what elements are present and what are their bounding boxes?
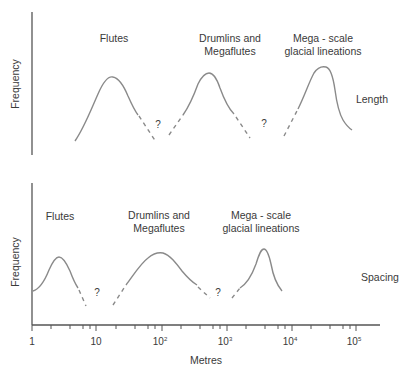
x-tick-label-10: 10 xyxy=(90,336,102,347)
length-drumlins-curve xyxy=(183,73,234,115)
length-gap-2-marker: ? xyxy=(261,118,267,129)
length-mscl-lead xyxy=(284,109,298,136)
x-tick-label-10e5: 105 xyxy=(347,336,362,347)
spacing-gap-2-marker: ? xyxy=(215,287,221,298)
length-flutes-label: Flutes xyxy=(100,32,129,44)
length-gap-1-marker: ? xyxy=(155,119,161,130)
spacing-flutes-curve xyxy=(33,257,78,291)
spacing-gap-1-marker: ? xyxy=(94,287,100,298)
x-tick-label-1: 1 xyxy=(29,336,35,347)
length-drumlins-label-line2: Megaflutes xyxy=(204,45,255,57)
frequency-distribution-diagram: Frequency Flutes Drumlins and Megaflutes… xyxy=(0,0,407,372)
length-mscl-label-line2: glacial lineations xyxy=(284,45,361,57)
length-mscl-label-line1: Mega - scale xyxy=(293,32,353,44)
length-drumlins-tail xyxy=(236,117,250,138)
length-y-axis-label: Frequency xyxy=(9,58,21,108)
spacing-drumlins-curve xyxy=(126,253,197,285)
spacing-drumlins-lead xyxy=(113,285,126,305)
spacing-side-label: Spacing xyxy=(361,271,399,283)
spacing-drumlins-label-line2: Megaflutes xyxy=(133,222,184,234)
x-tick-label-10e3: 103 xyxy=(218,336,233,347)
spacing-flutes-tail xyxy=(79,290,86,306)
length-drumlins-label-line1: Drumlins and xyxy=(199,32,261,44)
spacing-mscl-label-line1: Mega - scale xyxy=(231,209,291,221)
spacing-drumlins-tail xyxy=(198,287,210,298)
x-axis-label: Metres xyxy=(190,354,222,366)
spacing-mscl-curve xyxy=(240,249,282,291)
length-flutes-curve xyxy=(75,77,138,141)
spacing-mscl-lead xyxy=(232,288,240,298)
length-flutes-tail xyxy=(139,116,156,142)
spacing-panel: Frequency Flutes Drumlins and Megaflutes… xyxy=(9,183,399,366)
spacing-drumlins-label-line1: Drumlins and xyxy=(128,209,190,221)
x-tick-label-10e2: 102 xyxy=(153,336,168,347)
length-side-label: Length xyxy=(356,93,388,105)
spacing-flutes-label: Flutes xyxy=(46,210,75,222)
spacing-y-axis-label: Frequency xyxy=(9,236,21,286)
length-panel: Frequency Flutes Drumlins and Megaflutes… xyxy=(9,12,388,155)
length-drumlins-lead xyxy=(169,115,183,135)
spacing-mscl-label-line2: glacial lineations xyxy=(222,222,299,234)
x-tick-label-10e4: 104 xyxy=(283,336,298,347)
x-axis-ticks xyxy=(32,325,356,331)
length-mscl-curve xyxy=(298,67,352,130)
